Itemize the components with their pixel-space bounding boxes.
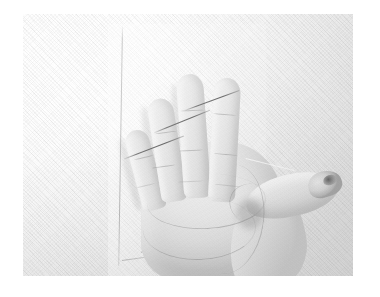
photograph: [23, 14, 353, 276]
photo-frame: [0, 0, 380, 297]
photo-vignette: [23, 14, 353, 276]
